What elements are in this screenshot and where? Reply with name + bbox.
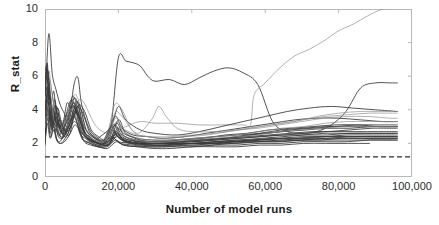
y-tick-label: 8 [10,37,38,48]
y-tick-label: 10 [10,3,38,14]
y-tick-label: 2 [10,137,38,148]
x-tick-label: 100,000 [392,181,432,192]
series-line [45,93,397,142]
r-stat-convergence-chart: R_stat Number of model runs 0246810 020,… [0,0,439,225]
series-line [45,63,397,144]
y-tick-label: 6 [10,70,38,81]
x-tick-label: 60,000 [248,181,282,192]
x-tick-label: 40,000 [175,181,209,192]
series-line [45,9,390,133]
x-tick-label: 80,000 [322,181,356,192]
x-tick-label: 0 [42,181,48,192]
chart-canvas [45,9,412,177]
plot-area [45,9,412,177]
y-tick-label: 4 [10,104,38,115]
x-axis-tick-labels: 020,00040,00060,00080,000100,000 [0,181,439,197]
x-axis-label: Number of model runs [45,203,413,215]
x-tick-label: 20,000 [102,181,136,192]
